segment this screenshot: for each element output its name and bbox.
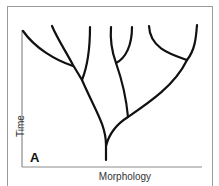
branch-middle [111,27,128,117]
branch-tip-1 [23,31,73,66]
branch-trunk [52,26,106,160]
y-axis-label: Time [15,111,27,141]
branch-tip-7 [187,25,197,60]
branch-tip-5 [116,27,132,63]
tree-branches [23,25,197,160]
x-axis-label: Morphology [60,171,190,182]
panel-label: A [30,150,39,165]
branch-tip-3 [82,27,90,80]
branch-tip-6 [149,26,187,60]
